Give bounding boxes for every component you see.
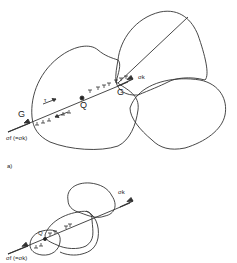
panel-a-label: a) xyxy=(7,163,12,169)
stress-in-label: σf (=σk) xyxy=(6,135,27,141)
stress-out-label: σk xyxy=(138,74,145,80)
diagram-graphics xyxy=(0,0,237,263)
shear-label: τ xyxy=(44,97,46,103)
grain-upper-right xyxy=(116,11,207,95)
point-q-b: Q xyxy=(38,230,43,236)
point-g-end: G xyxy=(117,88,124,97)
stress-out-label-b: σk xyxy=(118,189,125,195)
grain-left xyxy=(32,46,138,149)
figure: G Q G τ σk σf (=σk) a) Q σk σf (=σk) xyxy=(0,0,237,263)
point-q: Q xyxy=(80,101,87,110)
point-g-start: G xyxy=(18,110,25,119)
grain-lower-right xyxy=(130,79,226,149)
stress-in-label-b: σf (=σk) xyxy=(6,255,27,261)
